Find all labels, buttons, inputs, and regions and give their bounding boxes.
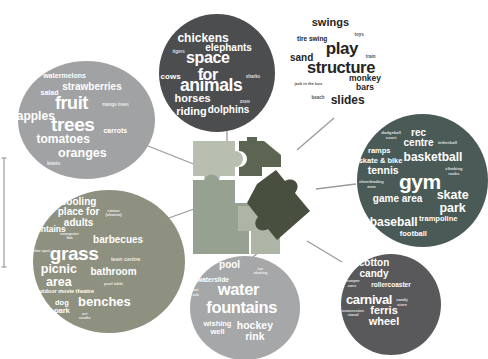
word: rollercoaster bbox=[371, 282, 410, 289]
word: teen centre bbox=[111, 257, 140, 263]
cluster-play-structure-cloud: swings toys tire swing play sand train s… bbox=[292, 10, 388, 110]
word: apples bbox=[17, 110, 55, 123]
cluster-fruit-trees-bubble: watermelons strawberries salad fruit man… bbox=[18, 61, 155, 179]
word: swings bbox=[312, 17, 349, 29]
word: dodgeball court bbox=[381, 131, 401, 140]
word-cloud-figure: watermelons strawberries salad fruit man… bbox=[0, 0, 488, 359]
word: tomatoes bbox=[37, 133, 90, 146]
word: riding bbox=[176, 106, 207, 118]
left-edge-line bbox=[2, 158, 7, 267]
word: watermelons bbox=[43, 73, 86, 80]
word: skate & bike bbox=[359, 157, 403, 165]
word: bumper cars bbox=[344, 279, 359, 288]
word: cheerleading area bbox=[359, 180, 384, 188]
word: fountains bbox=[206, 299, 277, 316]
word: trampoline bbox=[419, 215, 457, 223]
word: hockey rink bbox=[237, 320, 273, 342]
word: baseball bbox=[370, 215, 418, 228]
word: relax spot bbox=[31, 249, 50, 253]
word: water bbox=[218, 282, 259, 299]
cluster-space-for-animals-bubble: chickens elephants tigers space for cows… bbox=[159, 14, 275, 132]
word: tennis bbox=[368, 166, 399, 177]
word: skate park bbox=[437, 189, 469, 215]
word: horses bbox=[175, 93, 211, 105]
word: bathroom bbox=[90, 266, 136, 277]
word: tetherball bbox=[438, 141, 457, 145]
word: fruit bbox=[55, 94, 88, 113]
cluster-gym-bubble: rec centre dodgeball court tetherball ra… bbox=[357, 114, 488, 247]
word: carrots bbox=[103, 127, 127, 134]
word: beach bbox=[311, 96, 324, 101]
word: barbecues bbox=[93, 235, 143, 246]
cluster-grass-bubble: cooling place for adults statue (obama) … bbox=[33, 190, 185, 333]
word: ramps bbox=[368, 147, 391, 155]
word: monkey bars bbox=[349, 74, 381, 92]
word: picnic area bbox=[41, 263, 77, 289]
word: play bbox=[326, 40, 358, 58]
word: concession stand bbox=[342, 308, 364, 316]
word: ice skating bbox=[253, 266, 267, 274]
word: sharks bbox=[246, 74, 261, 79]
word: benches bbox=[78, 295, 131, 309]
word: mango trees bbox=[102, 102, 129, 107]
word: cotton candy bbox=[359, 258, 390, 279]
word: art studio bbox=[79, 312, 91, 320]
word: climbing rocks bbox=[445, 167, 462, 176]
word: rec centre bbox=[404, 127, 434, 148]
word: slides bbox=[331, 94, 365, 107]
word: tire swing bbox=[297, 36, 327, 43]
word: dog park bbox=[54, 299, 70, 315]
cluster-carnival-bubble: cotton candy bumper cars rollercoaster c… bbox=[341, 254, 441, 355]
word: cows bbox=[161, 72, 181, 80]
word: wishing well bbox=[204, 320, 232, 336]
word: dolphins bbox=[208, 104, 250, 115]
puzzle-piece-top-left bbox=[193, 141, 243, 184]
word: kiwis bbox=[47, 161, 60, 167]
word: jack in the box bbox=[294, 82, 322, 86]
word: strawberries bbox=[62, 82, 121, 93]
word: oranges bbox=[58, 148, 107, 161]
word: football bbox=[400, 230, 427, 238]
word: basketball bbox=[404, 150, 463, 163]
word: gym bbox=[399, 171, 441, 193]
word: statue (obama) bbox=[105, 208, 121, 217]
word: game area bbox=[373, 194, 422, 205]
word: toys bbox=[355, 33, 364, 38]
word: ferris wheel bbox=[369, 305, 400, 328]
word: hot tub bbox=[192, 288, 198, 296]
cluster-water-fountains-bubble: pool ice skating waterslide hot tub wate… bbox=[190, 256, 300, 359]
puzzle-pieces-graphic bbox=[183, 136, 317, 260]
word: computer lab bbox=[60, 231, 79, 240]
puzzle-piece-top-right bbox=[239, 137, 281, 176]
word: pool bbox=[219, 260, 240, 271]
word: pool table bbox=[104, 282, 123, 286]
